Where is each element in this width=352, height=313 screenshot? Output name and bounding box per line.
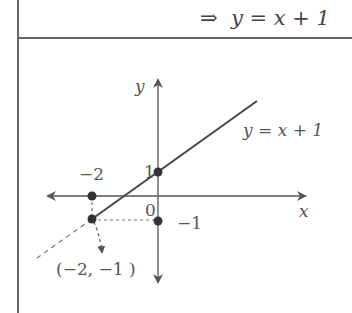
line-y-equals-x-plus-1 [92,101,257,219]
point-neg2-neg1 [88,215,97,224]
point-0-1 [154,168,163,177]
y-axis-label: y [134,76,145,96]
x-axis-label: x [299,201,309,221]
point-neg2-0 [88,192,97,201]
coordinate-graph: y x y = x + 1 −2 1 0 −1 (−2, −1 ) [0,0,352,313]
tick-label-neg1: −1 [177,213,202,233]
tick-label-neg2: −2 [79,164,104,184]
diagram-panel: ⇒ y = x + 1 [0,0,352,313]
tick-label-0: 0 [145,200,156,220]
line-label: y = x + 1 [242,120,323,140]
pointer-arrow [94,222,102,252]
point-coordinate-label: (−2, −1 ) [56,259,136,279]
dashed-extension [37,219,92,258]
tick-label-1: 1 [144,162,155,182]
